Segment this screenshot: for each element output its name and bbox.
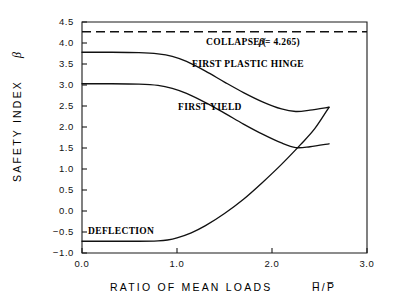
y-tick-label: 3.0 [59, 79, 74, 90]
collapse-label-symbol: β [258, 37, 264, 47]
y-tick-label: 4.0 [59, 37, 74, 48]
y-axis-tick-labels: 4.54.03.53.02.52.01.51.00.50.0−0.5−1.0 [53, 16, 74, 258]
data-curve-deflection [82, 107, 329, 241]
collapse-label-prefix: COLLAPSE ( [206, 37, 266, 48]
first-plastic-hinge-label: FIRST PLASTIC HINGE [192, 59, 304, 69]
y-axis-title-text: SAFETY INDEX [11, 80, 23, 182]
x-axis-title: RATIO OF MEAN LOADS H̅/P̅ [110, 281, 336, 293]
y-tick-label: 3.5 [59, 58, 74, 69]
x-axis-tick-labels: 0.01.02.03.0 [74, 258, 374, 269]
x-tick-label: 3.0 [359, 258, 374, 269]
y-tick-label: 1.5 [59, 142, 74, 153]
y-axis-title-symbol: β [10, 52, 24, 59]
x-axis-ticks [82, 248, 367, 253]
y-tick-label: 1.0 [59, 163, 74, 174]
y-tick-label: −1.0 [53, 247, 74, 258]
y-axis-title: SAFETY INDEX β [10, 52, 24, 182]
collapse-annotation: COLLAPSE ( β = 4.265) [206, 37, 300, 48]
plot-frame [82, 22, 367, 253]
y-tick-label: 2.0 [59, 121, 74, 132]
x-axis-title-symbol: H̅/P̅ [312, 281, 336, 293]
data-curve-first-yield [82, 84, 329, 148]
y-tick-label: 4.5 [59, 16, 74, 27]
y-tick-label: 0.0 [59, 205, 74, 216]
first-yield-label: FIRST YIELD [178, 102, 242, 112]
curve-annotations: COLLAPSE ( β = 4.265) FIRST PLASTIC HING… [88, 37, 304, 236]
chart-canvas: 4.54.03.53.02.52.01.51.00.50.0−0.5−1.0 0… [0, 0, 401, 301]
y-tick-label: −0.5 [53, 226, 74, 237]
x-axis-title-text: RATIO OF MEAN LOADS [110, 281, 272, 293]
x-tick-label: 2.0 [264, 258, 279, 269]
y-tick-label: 2.5 [59, 100, 74, 111]
deflection-label: DEFLECTION [88, 226, 154, 236]
y-tick-label: 0.5 [59, 184, 74, 195]
x-tick-label: 0.0 [74, 258, 89, 269]
chart-figure: 4.54.03.53.02.52.01.51.00.50.0−0.5−1.0 0… [0, 0, 401, 301]
collapse-label-suffix: = 4.265) [265, 37, 300, 48]
x-tick-label: 1.0 [169, 258, 184, 269]
y-axis-ticks [82, 22, 87, 253]
